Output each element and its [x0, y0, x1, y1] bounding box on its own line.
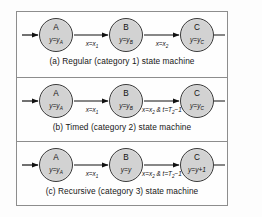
- state-node-a[interactable]: A y=yA: [39, 18, 73, 52]
- state-label-name: C: [181, 89, 213, 98]
- panel-c: A y=yA B y=y C y=y+1 x=x1 x=x2 & t=T2−1 …: [17, 142, 227, 207]
- panel-c-diagram: A y=yA B y=y C y=y+1 x=x1 x=x2 & t=T2−1: [17, 142, 227, 188]
- state-label-value: y=yA: [40, 36, 72, 45]
- transition-label-a-b: x=x1: [73, 40, 111, 49]
- panel-b: A y=yA B y=yB C y=yC x=x1 x=x2 & t=T2−1 …: [17, 77, 227, 142]
- state-node-b[interactable]: B y=yB: [109, 18, 143, 52]
- state-label-name: B: [110, 89, 142, 98]
- transition-label-a-b: x=x1: [73, 106, 111, 115]
- state-label-value: y=yC: [181, 36, 213, 45]
- state-node-c[interactable]: C y=yC: [180, 18, 214, 52]
- state-machine-figure: A y=yA B y=yB C y=yC x=x1 x=x2 (a) Regul…: [0, 0, 262, 217]
- state-label-name: B: [110, 23, 142, 32]
- state-label-name: C: [181, 153, 213, 162]
- panel-c-caption: (c) Recursive (category 3) state machine: [17, 186, 227, 196]
- panel-a-caption: (a) Regular (category 1) state machine: [17, 56, 227, 66]
- state-label-value: y=yA: [40, 166, 72, 175]
- state-label-name: A: [40, 89, 72, 98]
- state-label-value: y=yA: [40, 102, 72, 111]
- state-label-name: A: [40, 153, 72, 162]
- panel-a: A y=yA B y=yB C y=yC x=x1 x=x2 (a) Regul…: [17, 12, 227, 77]
- panel-a-diagram: A y=yA B y=yB C y=yC x=x1 x=x2: [17, 12, 227, 58]
- figure-frame: A y=yA B y=yB C y=yC x=x1 x=x2 (a) Regul…: [16, 11, 228, 206]
- panel-b-caption: (b) Timed (category 2) state machine: [17, 122, 227, 132]
- state-node-a[interactable]: A y=yA: [39, 84, 73, 118]
- state-label-value: y=yB: [110, 36, 142, 45]
- transition-label-b-c: x=x2: [139, 40, 185, 49]
- transition-label-a-b: x=x1: [73, 170, 111, 179]
- transition-label-b-c: x=x2 & t=T2−1: [127, 170, 197, 179]
- panel-b-diagram: A y=yA B y=yB C y=yC x=x1 x=x2 & t=T2−1: [17, 78, 227, 124]
- state-label-name: B: [110, 153, 142, 162]
- transition-label-b-c: x=x2 & t=T2−1: [127, 106, 197, 115]
- state-node-a[interactable]: A y=yA: [39, 148, 73, 182]
- state-label-name: A: [40, 23, 72, 32]
- state-label-name: C: [181, 23, 213, 32]
